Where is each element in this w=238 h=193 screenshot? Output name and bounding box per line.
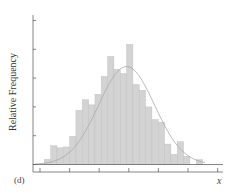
x-axis-label: x — [217, 175, 221, 186]
histogram-bar — [146, 107, 152, 165]
histogram-bar — [139, 90, 145, 164]
histogram-bar — [158, 122, 164, 164]
histogram-bar — [101, 76, 107, 164]
histogram-chart — [0, 0, 238, 193]
histogram-bar — [57, 148, 63, 165]
y-axis-ticks — [33, 21, 36, 165]
histogram-bar — [152, 120, 158, 165]
histogram-bar — [133, 84, 139, 164]
histogram-bar — [171, 154, 177, 164]
histogram-bar — [127, 44, 133, 164]
histogram-bar — [70, 136, 76, 164]
histogram-bar — [114, 69, 120, 164]
histogram-bar — [120, 73, 126, 164]
panel-label: (d) — [14, 175, 25, 185]
histogram-bar — [108, 57, 114, 165]
histogram-bar — [177, 142, 183, 165]
histogram-bar — [184, 156, 190, 164]
histogram-bar — [82, 100, 88, 165]
histogram-bar — [89, 105, 95, 165]
histogram-bar — [165, 144, 171, 164]
histogram-bar — [63, 147, 69, 165]
y-axis-label: Relative Frequency — [7, 53, 18, 131]
histogram-bars — [44, 44, 202, 164]
x-axis-ticks — [40, 168, 218, 172]
histogram-bar — [95, 94, 101, 164]
